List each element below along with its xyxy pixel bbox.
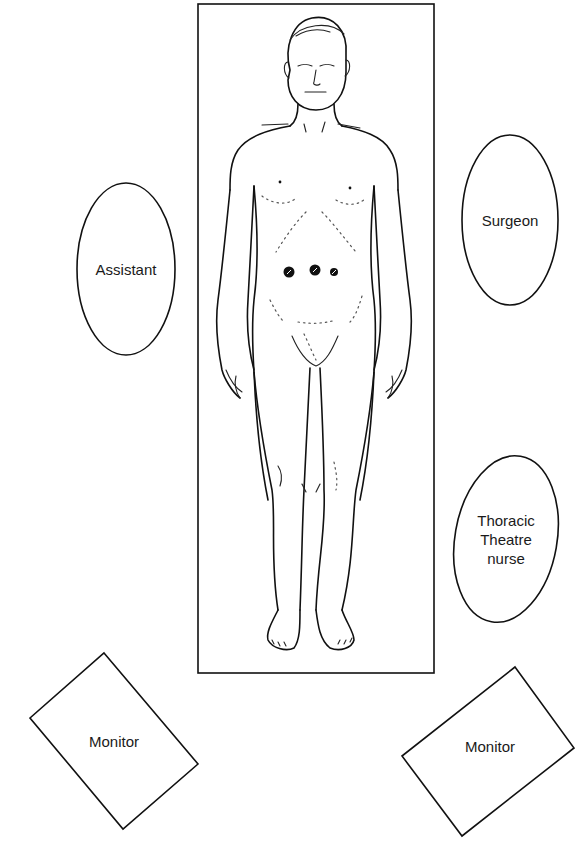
diagram-canvas bbox=[0, 0, 583, 848]
surgeon-label: Surgeon bbox=[482, 211, 539, 230]
theatre-layout-diagram: Assistant Surgeon Thoracic Theatre nurse… bbox=[0, 0, 583, 848]
patient-figure bbox=[217, 17, 412, 649]
operating-table bbox=[198, 4, 434, 673]
monitor-right-label: Monitor bbox=[465, 737, 515, 756]
monitor-left-label: Monitor bbox=[89, 732, 139, 751]
thoracic-theatre-nurse-label: Thoracic Theatre nurse bbox=[477, 511, 535, 568]
port-sites bbox=[284, 265, 339, 278]
assistant-label: Assistant bbox=[96, 260, 157, 279]
